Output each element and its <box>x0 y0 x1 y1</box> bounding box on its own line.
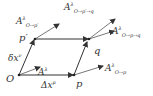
label-small-delta-x-nu: δxν <box>8 53 22 63</box>
label-A-O-p-q: AλO→p→q <box>112 26 141 38</box>
label-q: q <box>94 46 100 56</box>
label-p: p <box>76 79 82 89</box>
vector-A-at-p <box>74 66 103 75</box>
label-p-prime: p′ <box>19 33 28 43</box>
point-q <box>88 38 91 41</box>
point-O <box>18 74 21 77</box>
label-delta-x-mu: Δxμ <box>41 80 56 90</box>
point-p <box>73 74 76 77</box>
label-A-O-p: AλO→p <box>105 63 126 75</box>
vector-A-at-p-prime <box>35 24 59 39</box>
label-A-O-p-prime-q: AλO→p′→q <box>64 2 94 14</box>
label-O: O <box>6 74 14 84</box>
edge-p-q <box>74 42 87 75</box>
label-A-O-p-prime: AλO→p′ <box>16 16 38 28</box>
vector-A-at-q-via-p <box>89 31 114 39</box>
label-A-lambda: Aλ <box>38 67 48 77</box>
point-p-prime <box>34 38 37 41</box>
